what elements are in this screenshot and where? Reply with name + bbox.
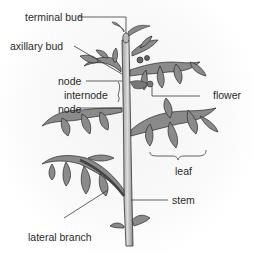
flower-shape <box>130 81 153 89</box>
label-flower: flower <box>213 90 241 101</box>
terminal-bud-shape <box>112 22 150 43</box>
upper-left-leaves <box>80 48 121 72</box>
label-node-upper: node <box>58 76 81 87</box>
label-leaf: leaf <box>175 166 192 177</box>
diagram-canvas: terminal bud axillary bud node internode… <box>0 0 253 253</box>
label-node-lower: node <box>58 104 81 115</box>
middle-left-leaves <box>42 108 122 136</box>
label-internode: internode <box>64 90 108 101</box>
label-axillary-bud: axillary bud <box>10 41 63 52</box>
plant-illustration <box>0 0 253 253</box>
label-stem: stem <box>172 195 195 206</box>
label-lateral-branch: lateral branch <box>28 232 92 243</box>
middle-right-leaves <box>131 98 218 148</box>
label-terminal-bud: terminal bud <box>25 12 83 23</box>
